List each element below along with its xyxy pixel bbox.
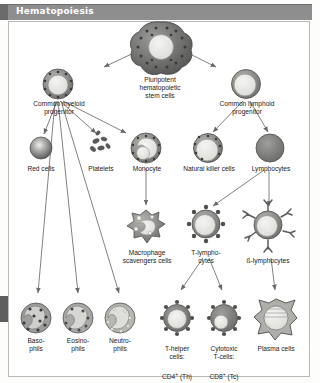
- cell-t-lymphocytes: [187, 205, 225, 243]
- label-neutrophils: Neutro- phils: [98, 337, 142, 353]
- label-basophils: Baso- phils: [14, 337, 58, 353]
- diagram-canvas: [0, 0, 320, 383]
- cell-common-myeloid-progenitor: [43, 69, 73, 99]
- label-plasma-cells: Plasma cells: [246, 345, 306, 353]
- label-red-cells: Red cells: [17, 165, 65, 173]
- cell-macrophage: [127, 210, 165, 243]
- label-t-helper-cells: T-helper cells: CD4+ (Th): [152, 337, 202, 381]
- edge-lymphocytes-tlympho: [213, 170, 264, 206]
- label-platelets: Platelets: [80, 165, 122, 173]
- hematopoiesis-figure: Hematopoiesis: [0, 0, 320, 383]
- cell-monocyte: [131, 133, 161, 163]
- cell-t-helper-cells: [160, 300, 194, 336]
- cell-b-lymphocytes: [243, 200, 295, 252]
- label-natural-killer-cells: Natural killer cells: [173, 165, 245, 173]
- label-t-lymphocytes: T-lympho- cytes: [182, 249, 230, 265]
- label-lymphocytes: Lymphocytes: [243, 165, 299, 173]
- label-common-lymphoid-progenitor: Common lymphoid progenitor: [203, 100, 291, 116]
- label-b-lymphocytes: ß-lymphocytes: [235, 257, 301, 265]
- cell-eosinophils: [63, 303, 93, 333]
- cell-natural-killer-cells: [194, 134, 223, 163]
- cell-cytotoxic-t-cells: [207, 300, 241, 336]
- edge-myeloid-eosinophils: [58, 101, 78, 293]
- cell-common-lymphoid-progenitor: [232, 70, 261, 99]
- cell-platelets: [89, 130, 111, 153]
- cell-basophils: [21, 303, 51, 333]
- label-cytotoxic-t-cells-main: Cytotoxic T-cells:: [210, 345, 237, 360]
- edge-myeloid-basophils: [38, 101, 55, 293]
- label-macrophage-scavengers-cells: Macrophage scavengers cells: [108, 249, 186, 265]
- label-t-helper-cells-main: T-helper cells:: [165, 345, 189, 360]
- cell-lymphocytes: [256, 134, 284, 162]
- label-eosinophils: Eosino- phils: [56, 337, 100, 353]
- label-monocyte: Monocyte: [124, 165, 170, 173]
- label-t-helper-cells-marker: CD4+ (Th): [162, 373, 192, 380]
- label-pluripotent-stem-cells: Pluripotent hematopoietic stem cells: [120, 76, 200, 101]
- cell-red-cells: [30, 137, 52, 159]
- cell-neutrophils: [105, 303, 135, 333]
- label-common-myeloid-progenitor: Common myeloid progenitor: [16, 100, 102, 116]
- cell-plasma-cells: [254, 299, 297, 340]
- label-cytotoxic-t-cells: Cytotoxic T-cells: CD8+ (Tc): [199, 337, 249, 381]
- cell-pluripotent-stem-cell: [130, 22, 192, 75]
- label-cytotoxic-t-cells-marker: CD8+ (Tc): [210, 373, 239, 380]
